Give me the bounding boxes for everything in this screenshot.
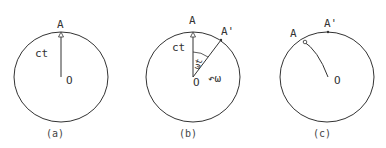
label-radius-ct: ct <box>172 41 185 54</box>
label-point-a-prime: A' <box>324 17 337 30</box>
label-radius-ct: ct <box>35 47 48 60</box>
caption-c: (c) <box>313 128 331 139</box>
arrow-head-icon <box>191 32 196 37</box>
angle-arc <box>193 52 208 57</box>
caption-a: (a) <box>46 128 64 139</box>
label-point-a: A <box>57 18 64 31</box>
label-angle-wt: ωt <box>191 57 204 71</box>
label-center-o: O <box>66 74 73 87</box>
panel-c: A A' O (c) <box>280 17 374 139</box>
panel-b: A A' ct ωt ↶ω O (b) <box>146 14 240 139</box>
label-point-a: A <box>290 27 297 40</box>
arrow-head-icon <box>59 32 64 37</box>
label-point-a-prime: A' <box>221 25 234 38</box>
point-a-marker <box>303 40 307 44</box>
panel-a: A ct O (a) <box>14 18 108 139</box>
label-point-a: A <box>189 14 196 27</box>
label-center-o: O <box>334 74 341 87</box>
label-rotation-omega: ↶ω <box>208 72 222 85</box>
circle-c <box>280 32 374 122</box>
curved-trajectory <box>303 41 328 77</box>
point-a-prime-dot <box>220 39 222 41</box>
point-a-prime-dot <box>327 31 329 33</box>
caption-b: (b) <box>179 128 197 139</box>
diagram-canvas: A ct O (a) A A' ct ωt ↶ω O (b) A A' O (c… <box>0 0 386 148</box>
label-center-o: O <box>193 76 200 89</box>
